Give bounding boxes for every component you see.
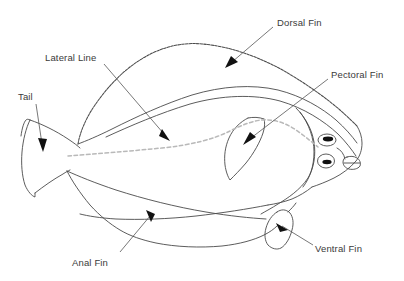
fish-outline-group	[21, 44, 362, 249]
dorsal-fin-base-line	[78, 87, 357, 144]
operculum-line	[300, 112, 314, 187]
dorsal-fin-outline	[78, 44, 357, 144]
eyes-group	[318, 134, 337, 168]
fish-anatomy-diagram: Dorsal Fin Pectoral Fin Lateral Line Tai…	[0, 0, 404, 281]
ventral-fin-connector	[288, 203, 296, 212]
arrowhead-ventral-fin	[276, 223, 288, 232]
caudal-peduncle-top	[30, 120, 80, 148]
fish-illustration	[0, 0, 404, 281]
arrowhead-dorsal-fin	[225, 56, 238, 68]
pectoral-fin-base	[248, 117, 264, 119]
label-anal-fin: Anal Fin	[72, 257, 108, 268]
body-bottom-contour	[80, 205, 268, 219]
label-lateral-line: Lateral Line	[45, 52, 96, 63]
label-pectoral-fin: Pectoral Fin	[331, 69, 384, 80]
lower-eye-pupil	[322, 160, 331, 164]
leader-lateral-line	[104, 64, 164, 134]
upper-eye-pupil	[323, 137, 333, 142]
arrowhead-pectoral-fin	[243, 132, 256, 145]
tail-fin-edge	[21, 119, 30, 136]
tail-fin-outline	[22, 120, 35, 197]
leader-anal-fin	[120, 216, 150, 252]
lateral-line-path	[68, 120, 318, 156]
pectoral-fin-outline	[225, 118, 265, 180]
arrowhead-anal-fin	[146, 210, 155, 222]
arrowhead-lateral-line	[159, 129, 170, 141]
caudal-peduncle-bottom	[35, 170, 70, 193]
lip-line	[337, 148, 345, 159]
label-dorsal-fin: Dorsal Fin	[277, 17, 322, 28]
leader-dorsal-fin	[232, 27, 273, 62]
label-ventral-fin: Ventral Fin	[315, 243, 362, 254]
arrowhead-tail	[38, 138, 47, 152]
label-tail: Tail	[18, 91, 33, 102]
leader-pectoral-fin	[251, 79, 328, 138]
